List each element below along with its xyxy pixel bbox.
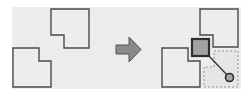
circle-handle-icon	[226, 74, 234, 82]
diagram-canvas	[0, 0, 248, 97]
hatched-square	[192, 39, 209, 56]
